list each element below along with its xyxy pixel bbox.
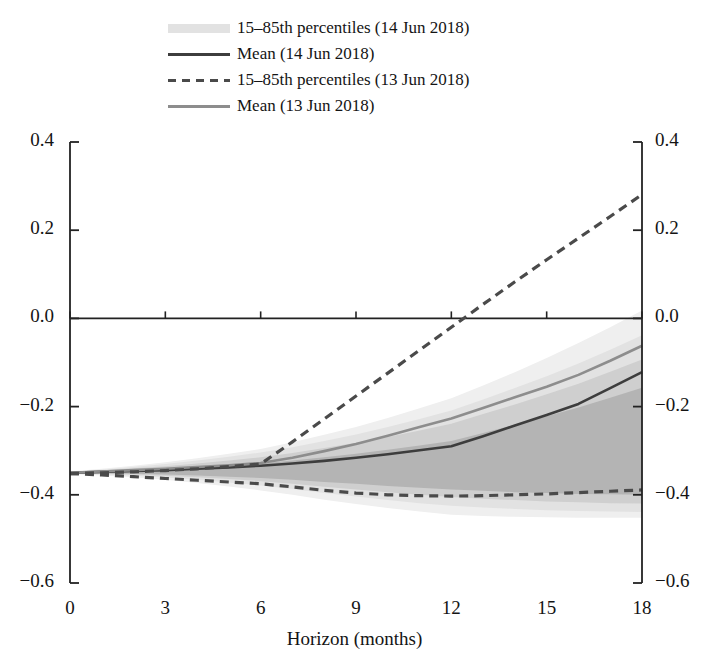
x-tick-label-4: 12 (431, 597, 471, 619)
y-tick-label-right-5: −0.6 (655, 570, 709, 592)
y-tick-label-left-5: −0.6 (0, 570, 54, 592)
y-tick-label-right-2: 0.0 (655, 305, 709, 327)
y-tick-label-left-1: 0.2 (0, 217, 54, 239)
y-tick-label-right-1: 0.2 (655, 217, 709, 239)
y-tick-label-right-0: 0.4 (655, 129, 709, 151)
x-tick-label-1: 3 (145, 597, 185, 619)
y-tick-label-left-2: 0.0 (0, 305, 54, 327)
x-tick-label-2: 6 (241, 597, 281, 619)
y-tick-label-left-3: −0.2 (0, 394, 54, 416)
y-tick-label-left-4: −0.4 (0, 482, 54, 504)
x-tick-label-5: 15 (527, 597, 567, 619)
fan-chart: 15–85th percentiles (14 Jun 2018) Mean (… (0, 0, 709, 671)
y-tick-label-left-0: 0.4 (0, 129, 54, 151)
x-tick-label-3: 9 (336, 597, 376, 619)
y-tick-label-right-3: −0.2 (655, 394, 709, 416)
plot-area (0, 0, 709, 671)
x-tick-label-6: 18 (622, 597, 662, 619)
y-tick-label-right-4: −0.4 (655, 482, 709, 504)
x-tick-label-0: 0 (50, 597, 90, 619)
x-axis-title: Horizon (months) (0, 628, 709, 650)
